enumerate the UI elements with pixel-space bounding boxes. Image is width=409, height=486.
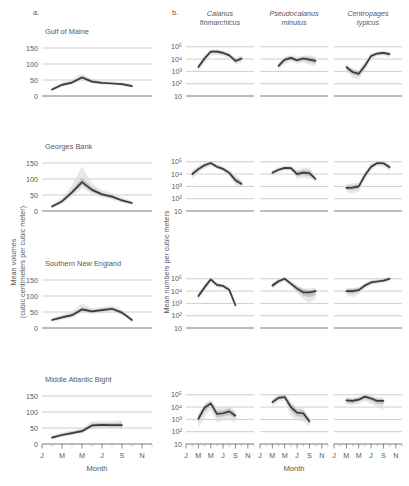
xtick-label-left-1: M (59, 451, 65, 460)
ytick-right-0-4: 10⁵ (171, 42, 182, 51)
xtick-label-left-3: J (100, 451, 104, 460)
ytick-right-0-3: 10⁴ (171, 55, 182, 64)
ytick-left-0-1: 50 (30, 76, 38, 85)
yaxis-title-right: Mean numbers per cubic meters (162, 210, 171, 313)
xtick-label-left-0: J (40, 451, 44, 460)
xtick-label-right-1-2: M (282, 451, 288, 460)
yaxis-title-left-line2: (cubic centimeters per cubic meter) (18, 206, 27, 318)
ytick-right-1-2: 10³ (172, 182, 183, 191)
ytick-right-1-1: 10² (172, 194, 183, 203)
xtick-label-right-2-5: N (393, 451, 398, 460)
panel-a-label: a. (33, 8, 39, 17)
ytick-left-2-0: 0 (34, 324, 38, 333)
xtick-label-right-2-3: J (369, 451, 373, 460)
ytick-left-3-1: 50 (30, 424, 38, 433)
ytick-left-1-1: 50 (30, 191, 38, 200)
xtick-label-left-4: S (120, 451, 125, 460)
uncertainty-band-outer-r0c2 (346, 51, 389, 80)
ytick-left-2-3: 150 (26, 276, 38, 285)
xtick-label-right-2-2: M (356, 451, 362, 460)
figure-container: Gulf of Maine050100150Georges Bank050100… (0, 0, 409, 486)
ytick-right-3-1: 10² (172, 427, 183, 436)
xtick-label-left-2: M (79, 451, 85, 460)
xtick-label-right-0-1: M (195, 451, 201, 460)
ytick-left-3-2: 100 (26, 408, 38, 417)
ytick-right-3-2: 10³ (172, 415, 183, 424)
panel-b-label: b. (172, 8, 178, 17)
xtick-label-right-0-4: S (233, 451, 238, 460)
species-epithet-1: minutus (281, 18, 307, 27)
ytick-left-0-0: 0 (34, 92, 38, 101)
region-title-0: Gulf of Maine (45, 27, 89, 36)
uncertainty-band-outer-r0c1 (279, 55, 316, 69)
xtick-label-right-1-5: N (319, 451, 324, 460)
ytick-right-0-0: 10 (174, 92, 182, 101)
ytick-left-3-3: 150 (26, 392, 38, 401)
ytick-right-2-3: 10⁴ (171, 287, 182, 296)
ytick-left-0-2: 100 (26, 60, 38, 69)
ytick-left-3-0: 0 (34, 440, 38, 449)
ytick-left-1-2: 100 (26, 175, 38, 184)
xaxis-title-right: Month (283, 464, 304, 473)
yaxis-title-left-line1: Mean volumes (9, 238, 18, 285)
xtick-label-right-2-4: S (381, 451, 386, 460)
ytick-left-1-0: 0 (34, 207, 38, 216)
ytick-left-2-2: 100 (26, 292, 38, 301)
ytick-right-3-4: 10⁵ (171, 390, 182, 399)
xtick-label-right-2-0: J (332, 451, 336, 460)
ytick-right-3-3: 10⁴ (171, 403, 182, 412)
ytick-right-2-4: 10⁵ (171, 274, 182, 283)
region-title-3: Middle Atlantic Bight (45, 375, 112, 384)
ytick-right-1-4: 10⁵ (171, 157, 182, 166)
xtick-label-right-1-4: S (307, 451, 312, 460)
zooplankton-figure-svg: Gulf of Maine050100150Georges Bank050100… (0, 0, 409, 486)
ytick-left-0-3: 150 (26, 44, 38, 53)
ytick-right-0-1: 10² (172, 79, 183, 88)
xaxis-title-left: Month (86, 464, 107, 473)
species-genus-1: Pseudocalanus (269, 9, 319, 18)
xtick-label-left-5: N (139, 451, 144, 460)
ytick-right-2-2: 10³ (172, 299, 183, 308)
species-epithet-2: typicus (357, 18, 380, 27)
ytick-right-0-2: 10³ (172, 67, 183, 76)
ytick-right-2-1: 10² (172, 311, 183, 320)
ytick-right-3-0: 10 (174, 440, 182, 449)
uncertainty-band-outer-1 (52, 166, 132, 208)
xtick-label-right-1-3: J (295, 451, 299, 460)
ytick-right-1-0: 10 (174, 207, 182, 216)
ytick-right-2-0: 10 (174, 324, 182, 333)
xtick-label-right-1-1: M (269, 451, 275, 460)
xtick-label-right-0-5: N (245, 451, 250, 460)
xtick-label-right-2-1: M (343, 451, 349, 460)
ytick-left-2-1: 50 (30, 308, 38, 317)
ytick-right-1-3: 10⁴ (171, 170, 182, 179)
xtick-label-right-0-0: J (184, 451, 188, 460)
xtick-label-right-0-2: M (208, 451, 214, 460)
species-genus-2: Centropages (347, 9, 389, 18)
ytick-left-1-3: 150 (26, 159, 38, 168)
species-epithet-0: finmarchicus (200, 18, 241, 27)
xtick-label-right-0-3: J (221, 451, 225, 460)
species-genus-0: Calanus (207, 9, 234, 18)
region-title-2: Southern New England (45, 259, 121, 268)
region-title-1: Georges Bank (45, 142, 93, 151)
xtick-label-right-1-0: J (258, 451, 262, 460)
